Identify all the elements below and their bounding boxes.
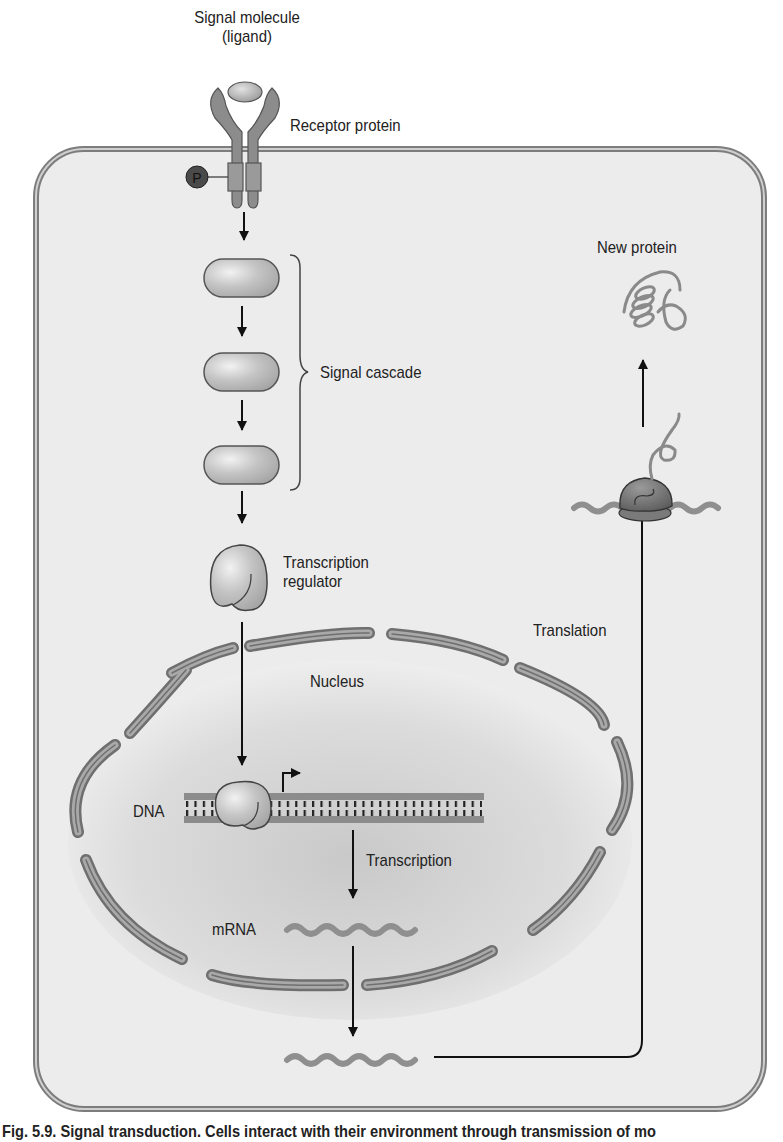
transcription-regulator-label-line2: regulator (283, 572, 342, 591)
translation-label: Translation (533, 621, 606, 640)
receptor-protein-label: Receptor protein (290, 116, 401, 135)
dna-bound-regulator (215, 782, 271, 829)
signal-molecule-label-line1: Signal molecule (185, 8, 308, 27)
phosphate-label: P (192, 170, 201, 186)
nucleus-label: Nucleus (310, 672, 364, 691)
signal-molecule (228, 82, 262, 102)
transcription-regulator (211, 545, 267, 610)
signal-cascade-label: Signal cascade (320, 363, 421, 382)
dna-label: DNA (133, 802, 165, 821)
new-protein-label: New protein (597, 238, 677, 257)
mrna-label: mRNA (212, 920, 256, 939)
transcription-label: Transcription (366, 851, 452, 870)
transcription-regulator-label-line1: Transcription (283, 553, 369, 572)
signal-molecule-label-line2: (ligand) (185, 27, 308, 46)
figure-caption: Fig. 5.9. Signal transduction. Cells int… (2, 1122, 776, 1142)
